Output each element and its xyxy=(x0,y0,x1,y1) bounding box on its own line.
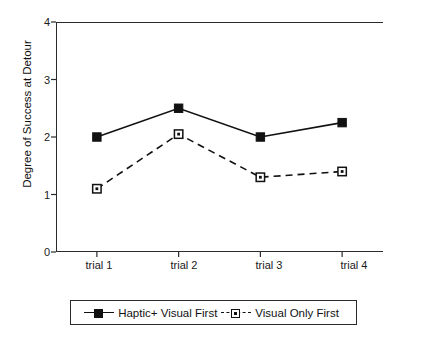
legend-entry-visual-only-first: Visual Only First xyxy=(221,307,343,319)
legend-marker-open-square-icon xyxy=(221,307,251,319)
x-tick-label-trial-4: trial 4 xyxy=(314,259,394,271)
y-tick-label-2: 2 xyxy=(32,132,50,143)
legend-label-haptic-visual-first: Haptic+ Visual First xyxy=(114,307,221,319)
x-axis-ticks xyxy=(97,252,342,257)
y-tick-label-0: 0 xyxy=(32,247,50,258)
y-tick-label-4: 4 xyxy=(32,17,50,28)
x-tick-label-trial-3: trial 3 xyxy=(229,259,309,271)
chart-legend: Haptic+ Visual First Visual Only First xyxy=(70,300,357,325)
plot-area xyxy=(56,22,383,252)
y-axis-title: Degree of Success at Detour xyxy=(21,0,33,229)
x-tick-label-trial-1: trial 1 xyxy=(59,259,139,271)
x-tick-label-trial-2: trial 2 xyxy=(144,259,224,271)
chart-figure: 0 1 2 3 4 Degree of Success at Detour tr… xyxy=(0,0,427,345)
legend-entry-haptic-visual-first: Haptic+ Visual First xyxy=(84,307,221,319)
legend-marker-filled-square-icon xyxy=(84,307,114,319)
y-tick-label-3: 3 xyxy=(32,74,50,85)
y-tick-label-1: 1 xyxy=(32,189,50,200)
legend-label-visual-only-first: Visual Only First xyxy=(251,307,343,319)
